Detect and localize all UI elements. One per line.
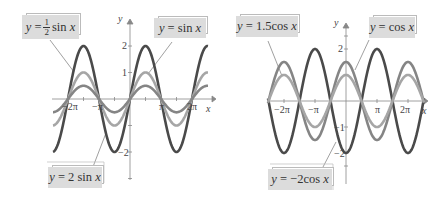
- label-one-five-cos: y = 1.5cos x: [236, 16, 298, 37]
- right-chart-cosine: y x −2π −π π 2π 2 −1 −2: [268, 17, 428, 190]
- left-tick-2: 2: [122, 40, 127, 51]
- label-var-y: y: [26, 20, 32, 35]
- label-func: −2cos: [290, 172, 320, 187]
- left-tick-neg-pi: −π: [92, 101, 103, 112]
- label-var-x: x: [70, 20, 76, 35]
- label-func: sin: [178, 21, 193, 36]
- right-tick-neg-pi: −π: [308, 104, 319, 115]
- left-x-axis-label: x: [205, 103, 211, 114]
- label-equals: =: [34, 20, 41, 35]
- label-func: cos: [389, 20, 406, 35]
- right-tick-two-pi: 2π: [400, 104, 410, 115]
- label-var-x: x: [196, 21, 202, 36]
- label-var-x: x: [323, 172, 329, 187]
- label-var-x: x: [291, 19, 297, 34]
- label-neg-two-cos: y = −2cos x: [268, 169, 332, 190]
- label-var-x: x: [409, 20, 415, 35]
- label-equals: =: [58, 170, 65, 185]
- label-equals: =: [379, 20, 386, 35]
- label-cos: y = cos x: [369, 17, 415, 38]
- label-sin: y = sin x: [154, 18, 206, 38]
- label-var-y: y: [370, 20, 376, 35]
- right-y-axis-label: y: [333, 17, 339, 28]
- label-half-sin: y = 12 sin x: [22, 15, 79, 39]
- left-tick-two-pi: 2π: [187, 101, 197, 112]
- label-var-y: y: [237, 19, 243, 34]
- label-equals: =: [168, 21, 175, 36]
- right-tick-2: 2: [338, 43, 343, 54]
- left-y-axis-label: y: [117, 13, 123, 24]
- right-tick-pi: π: [375, 104, 380, 115]
- right-x-axis-label: x: [421, 105, 427, 116]
- label-var-y: y: [159, 21, 165, 36]
- left-tick-neg-two-pi: −2π: [62, 101, 78, 112]
- left-tick-pi: π: [159, 101, 164, 112]
- left-tick-neg-2: −2: [118, 147, 129, 158]
- label-var-y: y: [271, 172, 277, 187]
- right-tick-neg-1: −1: [334, 122, 345, 133]
- right-tick-neg-2: −2: [334, 148, 345, 159]
- label-func: 2 sin: [68, 170, 92, 185]
- label-var-x: x: [95, 170, 101, 185]
- label-equals: =: [246, 19, 253, 34]
- label-func: 1.5cos: [256, 19, 288, 34]
- label-two-sin: y = 2 sin x: [48, 167, 102, 188]
- left-tick-1: 1: [122, 67, 127, 78]
- right-tick-neg-two-pi: −2π: [274, 104, 290, 115]
- label-var-y: y: [49, 170, 55, 185]
- fraction-half: 12: [43, 18, 50, 37]
- fraction-numerator: 1: [43, 18, 50, 28]
- label-equals: =: [280, 172, 287, 187]
- fraction-denominator: 2: [44, 28, 49, 37]
- label-func: sin: [52, 20, 67, 35]
